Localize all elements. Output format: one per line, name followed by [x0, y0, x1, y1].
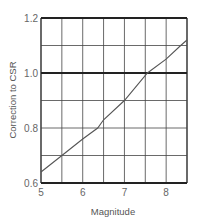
x-tick-label: 5 [38, 187, 44, 198]
x-tick-label: 6 [80, 187, 86, 198]
x-tick-label: 7 [122, 187, 128, 198]
x-tick-label: 8 [163, 187, 169, 198]
y-tick-label: 1.0 [24, 68, 38, 79]
tick-labels: 56780.60.81.01.2 [24, 13, 169, 198]
grid [41, 18, 187, 183]
y-tick-label: 1.2 [24, 13, 38, 24]
x-axis-label: Magnitude [91, 206, 135, 217]
chart: 56780.60.81.01.2 Magnitude Correction to… [0, 0, 200, 222]
y-tick-label: 0.6 [24, 178, 38, 189]
y-tick-label: 0.8 [24, 123, 38, 134]
y-axis-label: Correction to CSR [7, 61, 18, 138]
data-curve [41, 40, 187, 172]
